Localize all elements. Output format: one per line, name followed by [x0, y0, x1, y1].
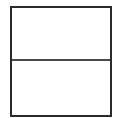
diagram-canvas	[0, 0, 117, 118]
horizontal-divider	[12, 59, 110, 61]
outer-rectangle	[10, 6, 112, 117]
